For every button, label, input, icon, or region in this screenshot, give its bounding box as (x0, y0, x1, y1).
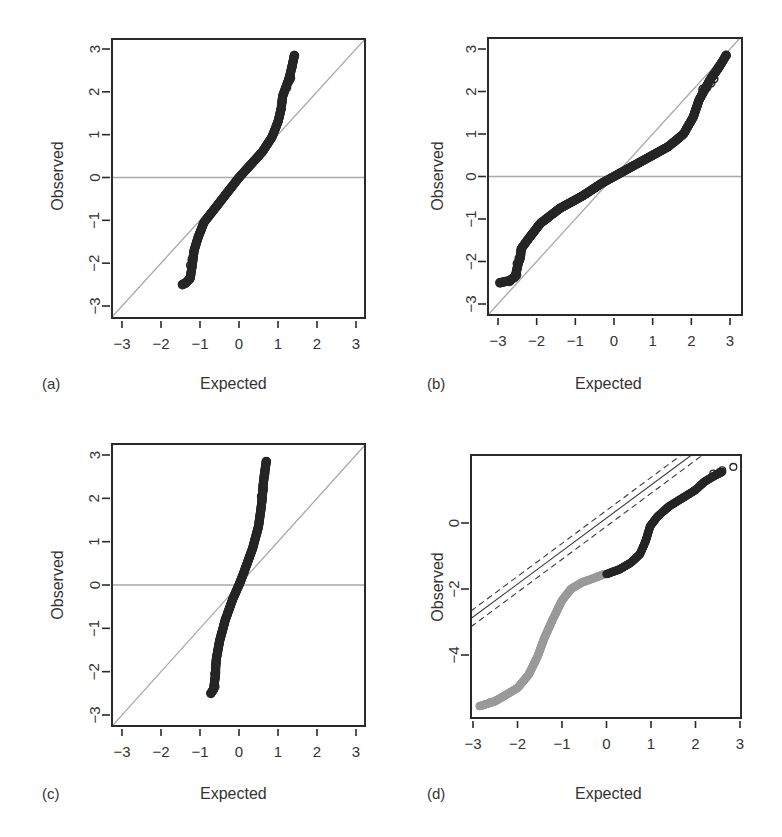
plot-area (112, 445, 365, 726)
x-tick-label: 1 (274, 335, 282, 352)
y-axis: −4−20 (445, 519, 470, 664)
x-axis: −3−2−10123 (113, 321, 360, 352)
panel-c-plot: −3−2−10123−3−2−10123 (86, 444, 366, 760)
x-tick-label: 2 (313, 335, 321, 352)
y-tick-label: 1 (86, 130, 103, 138)
panel-a-xlabel: Expected (200, 375, 267, 393)
panel-d-label: (d) (427, 785, 445, 802)
x-tick-label: −1 (191, 335, 208, 352)
x-tick-label: −2 (528, 332, 545, 349)
x-tick-label: 1 (647, 735, 655, 752)
y-tick-label: 0 (445, 519, 462, 527)
x-tick-label: 0 (610, 332, 618, 349)
point-series (179, 52, 299, 289)
x-tick-label: −2 (152, 335, 169, 352)
x-tick-label: −3 (113, 743, 130, 760)
y-axis: −3−2−10123 (86, 45, 111, 315)
y-tick-label: 3 (86, 45, 103, 53)
tail-points (476, 464, 736, 710)
x-tick-label: 3 (352, 743, 360, 760)
panel-b-ylabel: Observed (429, 136, 447, 216)
panel-c-label: (c) (42, 785, 60, 802)
y-tick-label: 3 (86, 451, 103, 459)
x-tick-label: 2 (313, 743, 321, 760)
panel-d-ylabel: Observed (429, 547, 447, 627)
x-axis: −3−2−10123 (489, 318, 734, 349)
x-tick-label: −3 (464, 735, 481, 752)
panel-b-xlabel: Expected (575, 375, 642, 393)
panel-c-ylabel: Observed (49, 545, 67, 625)
y-tick-label: 2 (462, 87, 479, 95)
point-series (603, 469, 726, 578)
x-tick-label: 1 (274, 743, 282, 760)
x-tick-label: 2 (691, 735, 699, 752)
y-tick-label: −2 (445, 580, 462, 597)
panel-b-plot: −3−2−10123−3−2−10123 (462, 38, 743, 349)
x-tick-label: −3 (489, 332, 506, 349)
x-tick-label: 1 (648, 332, 656, 349)
y-tick-label: 0 (462, 172, 479, 180)
y-tick-label: −1 (462, 210, 479, 227)
panel-a-ylabel: Observed (49, 136, 67, 216)
qq-plot-figure: −3−2−10123−3−2−10123−3−2−10123−3−2−10123… (0, 0, 782, 837)
x-tick-label: 3 (736, 735, 744, 752)
x-tick-label: 0 (235, 335, 243, 352)
y-tick-label: −2 (86, 255, 103, 272)
y-tick-label: −4 (445, 646, 462, 663)
plot-frame (471, 455, 741, 718)
panel-a-label: (a) (42, 375, 60, 392)
panel-c-xlabel: Expected (200, 785, 267, 803)
x-tick-label: −1 (567, 332, 584, 349)
x-tick-label: −2 (509, 735, 526, 752)
panel-a-plot: −3−2−10123−3−2−10123 (86, 39, 366, 352)
x-tick-label: −3 (113, 335, 130, 352)
panel-d-xlabel: Expected (575, 785, 642, 803)
y-tick-label: −2 (86, 663, 103, 680)
y-tick-label: 3 (462, 45, 479, 53)
y-tick-label: −3 (86, 297, 103, 314)
y-tick-label: −1 (86, 212, 103, 229)
x-tick-label: −2 (152, 743, 169, 760)
y-tick-label: 2 (86, 88, 103, 96)
y-tick-label: 2 (86, 494, 103, 502)
x-tick-label: −1 (191, 743, 208, 760)
x-axis: −3−2−10123 (464, 721, 744, 752)
panel-d-plot: −3−2−10123−4−20 (445, 455, 745, 752)
plot-area (112, 39, 365, 317)
confidence-band-line (471, 455, 703, 627)
y-tick-label: −3 (86, 706, 103, 723)
x-axis: −3−2−10123 (113, 729, 360, 760)
x-tick-label: 2 (687, 332, 695, 349)
y-axis: −3−2−10123 (462, 45, 487, 313)
x-tick-label: 0 (602, 735, 610, 752)
y-tick-label: −3 (462, 295, 479, 312)
panel-b-label: (b) (427, 375, 445, 392)
y-axis: −3−2−10123 (86, 451, 111, 724)
y-tick-label: 0 (86, 173, 103, 181)
y-tick-label: −2 (462, 253, 479, 270)
x-tick-label: −1 (553, 735, 570, 752)
expected-line (471, 455, 692, 619)
x-tick-label: 0 (235, 743, 243, 760)
y-tick-label: 1 (462, 130, 479, 138)
x-tick-label: 3 (352, 335, 360, 352)
point-series (476, 571, 607, 710)
y-tick-label: −1 (86, 620, 103, 637)
y-tick-label: 0 (86, 581, 103, 589)
plot-area (488, 38, 742, 315)
plot-area (471, 455, 737, 710)
y-tick-label: 1 (86, 537, 103, 545)
x-tick-label: 3 (726, 332, 734, 349)
